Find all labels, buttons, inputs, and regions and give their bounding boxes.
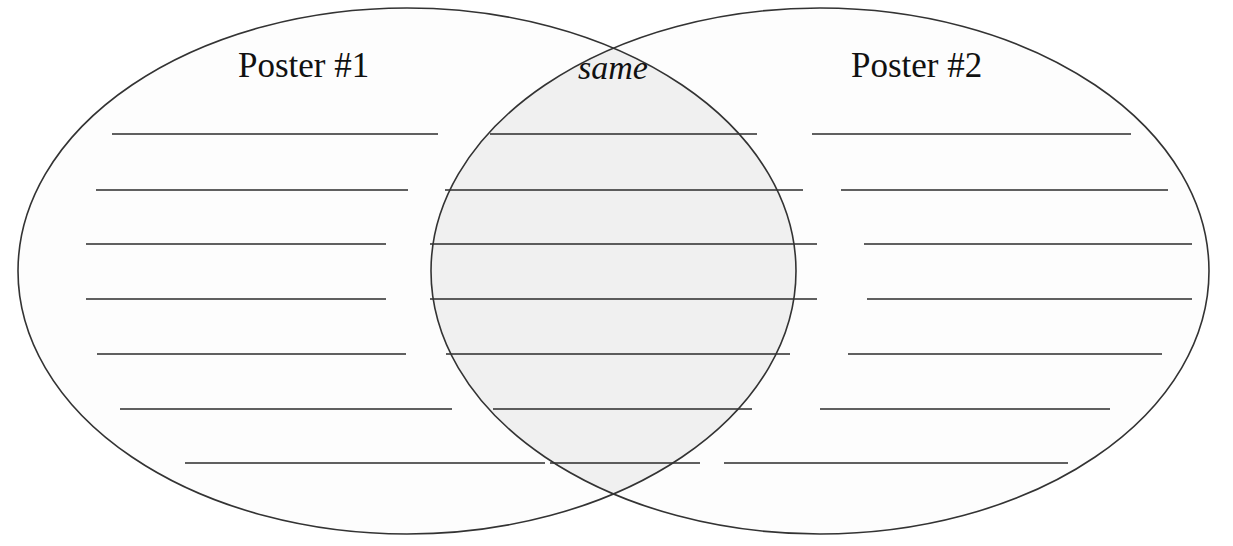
overlap-label: same [578,51,648,85]
right-circle-label: Poster #2 [851,48,982,83]
worksheet-canvas: Poster #1 same Poster #2 [0,0,1233,546]
left-circle-label: Poster #1 [238,48,369,83]
